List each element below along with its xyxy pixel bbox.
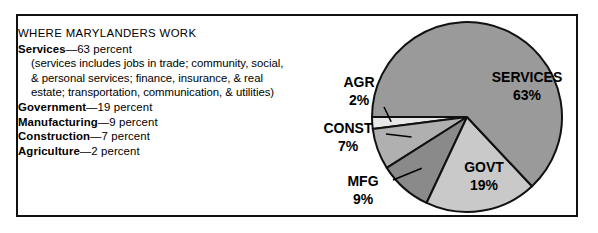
note-line-1: (services includes jobs in trade; commun… [18, 56, 288, 71]
pie-label-govt: GOVT [464, 159, 504, 175]
pie-value-mfg: 9% [353, 191, 374, 207]
figure-root: WHERE MARYLANDERS WORK Services—63 perce… [0, 0, 598, 233]
entry-construction-value: —7 percent [90, 130, 150, 142]
pie-label-services: SERVICES [492, 69, 563, 85]
pie-value-services: 63% [513, 87, 542, 103]
entry-agriculture-name: Agriculture [18, 145, 80, 157]
panel-heading: WHERE MARYLANDERS WORK [18, 26, 288, 41]
entry-construction-name: Construction [18, 130, 90, 142]
entry-services-name: Services [18, 43, 66, 55]
pie-value-govt: 19% [470, 177, 499, 193]
note-line-2: & personal services; finance, insurance,… [18, 71, 288, 86]
note-line-3: estate; transportation, communication, &… [18, 85, 288, 100]
entry-services: Services—63 percent [18, 42, 288, 57]
entry-manufacturing: Manufacturing—9 percent [18, 115, 288, 130]
pie-chart-svg: SERVICES63%GOVT19%AGR2%CONST7%MFG9% [300, 0, 598, 233]
entry-manufacturing-name: Manufacturing [18, 116, 98, 128]
entry-agriculture-value: —2 percent [80, 145, 140, 157]
pie-label-agr: AGR [343, 74, 374, 90]
pie-label-mfg: MFG [347, 173, 378, 189]
pie-slices [372, 22, 562, 212]
entry-services-value: —63 percent [66, 43, 132, 55]
entry-agriculture: Agriculture—2 percent [18, 144, 288, 159]
entry-government-name: Government [18, 101, 86, 113]
entry-construction: Construction—7 percent [18, 129, 288, 144]
pie-value-const: 7% [338, 138, 359, 154]
pie-value-agr: 2% [349, 92, 370, 108]
text-panel: WHERE MARYLANDERS WORK Services—63 perce… [18, 26, 288, 158]
pie-chart: SERVICES63%GOVT19%AGR2%CONST7%MFG9% [300, 0, 598, 233]
entry-government-value: —19 percent [86, 101, 152, 113]
entry-government: Government—19 percent [18, 100, 288, 115]
pie-label-const: CONST [324, 120, 373, 136]
entry-manufacturing-value: —9 percent [98, 116, 158, 128]
